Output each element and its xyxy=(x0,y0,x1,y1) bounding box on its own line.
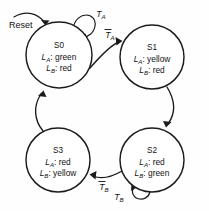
transition-label-s2-self: TB xyxy=(114,192,123,203)
s2-out-a-value: red xyxy=(153,157,165,167)
transition-s2-to-s3 xyxy=(90,171,123,180)
s1-s2-arrow-head xyxy=(163,121,172,128)
s0-out-a-value: green xyxy=(55,52,77,62)
label-subscript-not-ta: A xyxy=(110,34,115,41)
state-node-s1[interactable]: S1 LA: yellow LB: red xyxy=(120,25,184,89)
label-subscript-ta: A xyxy=(101,13,106,20)
s3-s0-arrow-head xyxy=(38,91,47,98)
s0-s1-path xyxy=(90,42,119,68)
transition-label-s2-s3: TB xyxy=(99,182,108,193)
s1-out-b-value: red xyxy=(153,65,165,75)
state-s0-name: S0 xyxy=(54,41,64,50)
transition-label-s0-self: TA xyxy=(96,9,105,20)
s0-out-b-value: red xyxy=(60,63,72,73)
state-s1-name: S1 xyxy=(147,43,157,52)
state-s2-name: S2 xyxy=(147,146,157,155)
s0-s1-arrow-head xyxy=(116,37,123,46)
transition-label-s0-s1: TA xyxy=(105,30,114,41)
state-diagram-canvas: Reset TA TA TB xyxy=(0,0,209,211)
s3-out-a-value: red xyxy=(59,157,71,167)
state-node-s3[interactable]: S3 LA: red LB: yellow xyxy=(26,128,90,192)
s3-s0-path xyxy=(36,94,43,131)
s1-out-a-value: yellow xyxy=(147,54,171,64)
transition-label-s2-s3-group: TB xyxy=(99,182,109,194)
transition-s3-to-s0 xyxy=(36,91,47,132)
transition-s0-to-s1 xyxy=(90,37,123,68)
s2-s3-path xyxy=(93,171,122,178)
state-s1-output-b: LB: red xyxy=(139,65,165,76)
s1-s2-path xyxy=(167,87,174,124)
s3-out-b-value: yellow xyxy=(53,168,77,178)
transition-s1-to-s2 xyxy=(163,87,174,128)
label-subscript-tb: B xyxy=(120,196,124,203)
state-s2-output-a: LA: red xyxy=(139,157,165,168)
state-node-s0[interactable]: S0 LA: green LB: red xyxy=(26,22,92,88)
s2-out-b-value: green xyxy=(148,168,170,178)
state-node-s2[interactable]: S2 LA: red LB: green xyxy=(120,128,184,192)
label-subscript-not-tb: B xyxy=(105,186,109,193)
state-s3-output-a: LA: red xyxy=(45,157,71,168)
state-s3-name: S3 xyxy=(53,146,63,155)
transition-label-s0-s1-group: TA xyxy=(105,30,115,42)
s2-s3-arrow-head xyxy=(90,171,97,180)
fsm-diagram: Reset TA TA TB xyxy=(0,0,209,211)
state-s0-output-b: LB: red xyxy=(46,63,72,74)
reset-label: Reset xyxy=(9,20,33,30)
